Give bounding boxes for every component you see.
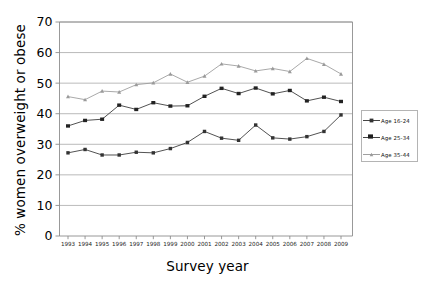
x-tick-label: 1996 [112,241,127,247]
x-tick-label: 2007 [300,241,315,247]
data-point [117,153,120,156]
data-point [203,130,206,133]
legend-marker-icon-age-35-44 [362,149,381,161]
series-line [68,88,341,126]
y-tick-labels: 010203040506070 [37,14,53,243]
data-point [66,151,69,154]
x-axis-title: Survey year [60,258,355,274]
data-point [66,124,70,127]
chart-container: % women overweight or obese 010203040506… [0,0,424,289]
x-tick-label: 1995 [95,241,110,247]
data-point [288,137,291,140]
y-tick-label: 40 [37,106,53,121]
x-tick-marks [68,236,341,239]
data-point [203,95,207,98]
x-tick-label: 2006 [283,241,298,247]
x-tick-label: 2001 [197,241,212,247]
x-tick-label: 1999 [163,241,178,247]
data-point [339,113,342,116]
data-point [305,56,309,60]
x-tick-label: 2002 [214,241,228,247]
x-tick-label: 2005 [266,241,281,247]
legend-label-age-35-44: Age 35-44 [381,152,410,158]
data-point [152,151,155,154]
data-point [220,136,223,139]
data-point [237,139,240,142]
legend-label-age-25-34: Age 25-34 [381,135,410,141]
data-point [339,100,343,103]
legend-marker-icon-age-16-24 [362,115,381,127]
x-tick-label: 1998 [146,241,161,247]
legend-item-age-35-44: Age 35-44 [362,146,417,163]
data-point [151,101,155,104]
y-tick-label: 70 [37,14,53,29]
data-point [135,151,138,154]
series-line [68,115,341,155]
data-point [305,135,308,138]
x-tick-label: 1997 [129,241,144,247]
data-point [254,123,257,126]
y-tick-label: 60 [37,45,53,60]
data-point [168,104,172,107]
data-point [288,89,292,92]
y-tick-label: 30 [37,137,53,152]
data-point [100,153,103,156]
x-tick-label: 1994 [78,241,93,247]
data-series-layer [66,56,343,156]
x-tick-labels: 1993199419951996199719981999200020012002… [61,241,349,247]
data-point [134,108,138,111]
y-tick-marks [56,22,60,236]
legend-label-age-16-24: Age 16-24 [381,118,410,124]
y-tick-label: 10 [37,198,53,213]
y-tick-label: 50 [37,76,53,91]
series-line [68,58,341,99]
legend-marker-icon-age-25-34 [362,132,381,144]
legend-item-age-16-24: Age 16-24 [362,112,417,129]
data-point [83,119,87,122]
data-point [322,96,326,99]
x-tick-label: 2004 [249,241,264,247]
data-point [271,136,274,139]
data-point [168,72,172,76]
legend-item-age-25-34: Age 25-34 [362,129,417,146]
x-tick-label: 2003 [232,241,247,247]
data-point [339,72,343,76]
data-point [220,87,224,90]
data-point [271,92,275,95]
data-point [305,99,309,102]
x-tick-label: 1993 [61,241,76,247]
data-point [186,141,189,144]
data-point [322,130,325,133]
data-point [83,148,86,151]
data-point [237,92,241,95]
data-point [185,104,189,107]
data-point [254,86,258,89]
x-tick-label: 2009 [334,241,349,247]
data-point [117,103,121,106]
legend: Age 16-24 Age 25-34 Age 35-44 [361,110,418,162]
gridlines [60,22,353,205]
x-tick-label: 2000 [180,241,195,247]
axis-frame [60,22,353,236]
x-tick-label: 2008 [317,241,332,247]
data-point [100,118,104,121]
y-tick-label: 0 [45,228,53,243]
data-point [169,147,172,150]
y-tick-label: 20 [37,167,53,182]
